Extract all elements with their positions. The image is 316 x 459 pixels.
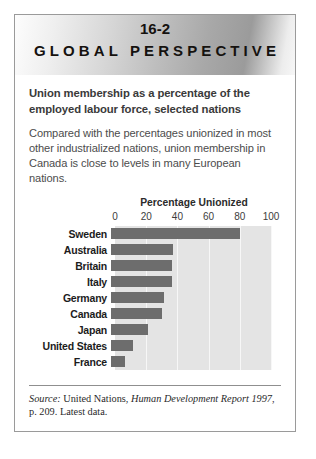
source-text: Source: United Nations, Human Developmen… — [29, 393, 281, 419]
bar-track — [111, 306, 267, 322]
bar-track — [111, 322, 267, 338]
x-tick-40: 40 — [172, 211, 183, 222]
x-tick-80: 80 — [234, 211, 245, 222]
x-axis-ticks: 020406080100 — [29, 211, 281, 224]
bar-row: United States — [29, 338, 271, 354]
figure-description: Compared with the percentages unionized … — [29, 126, 281, 186]
bar-united-states — [111, 340, 133, 351]
chart-axis-title: Percentage Unionized — [115, 197, 273, 208]
bar-track — [111, 274, 267, 290]
bar-track — [111, 354, 267, 370]
bar-track — [111, 290, 267, 306]
bar-chart: Percentage Unionized 020406080100 Sweden… — [29, 197, 281, 373]
figure-page: 16-2 GLOBAL PERSPECTIVE Union membership… — [0, 0, 316, 459]
bar-canada — [111, 308, 162, 319]
bar-italy — [111, 276, 172, 287]
bar-britain — [111, 260, 172, 271]
source-block: Source: United Nations, Human Developmen… — [29, 385, 281, 419]
bar-track — [111, 226, 267, 242]
bar-track — [111, 242, 267, 258]
bar-label-australia: Australia — [29, 244, 111, 256]
card-body: Union membership as a percentage of the … — [15, 76, 295, 373]
bar-row: Germany — [29, 290, 271, 306]
bar-row: Italy — [29, 274, 271, 290]
bar-label-japan: Japan — [29, 324, 111, 336]
x-tick-0: 0 — [112, 211, 118, 222]
source-title: Human Development Report 1997 — [131, 393, 272, 404]
figure-headline: Union membership as a percentage of the … — [29, 86, 281, 117]
bar-track — [111, 338, 267, 354]
bar-sweden — [111, 228, 240, 239]
source-divider — [29, 385, 281, 386]
bar-germany — [111, 292, 164, 303]
bar-row: Canada — [29, 306, 271, 322]
x-tick-100: 100 — [263, 211, 280, 222]
figure-number: 16-2 — [15, 20, 295, 37]
figure-card: 16-2 GLOBAL PERSPECTIVE Union membership… — [14, 14, 296, 432]
bar-japan — [111, 324, 148, 335]
source-publisher: United Nations, — [61, 393, 131, 404]
banner-header: 16-2 GLOBAL PERSPECTIVE — [15, 15, 295, 76]
bar-australia — [111, 244, 173, 255]
bar-france — [111, 356, 125, 367]
bar-label-italy: Italy — [29, 276, 111, 288]
bar-label-france: France — [29, 356, 111, 368]
bar-row: Japan — [29, 322, 271, 338]
bar-label-germany: Germany — [29, 292, 111, 304]
bar-rows: SwedenAustraliaBritainItalyGermanyCanada… — [29, 226, 271, 370]
x-tick-20: 20 — [141, 211, 152, 222]
bar-label-canada: Canada — [29, 308, 111, 320]
bar-track — [111, 258, 267, 274]
bar-row: Britain — [29, 258, 271, 274]
bar-row: France — [29, 354, 271, 370]
bar-row: Sweden — [29, 226, 271, 242]
bar-label-united-states: United States — [29, 340, 111, 352]
gridline-100 — [271, 226, 272, 370]
x-tick-60: 60 — [203, 211, 214, 222]
source-label: Source: — [29, 393, 61, 404]
bar-row: Australia — [29, 242, 271, 258]
bar-label-britain: Britain — [29, 260, 111, 272]
banner-title: GLOBAL PERSPECTIVE — [15, 42, 295, 59]
bar-label-sweden: Sweden — [29, 228, 111, 240]
